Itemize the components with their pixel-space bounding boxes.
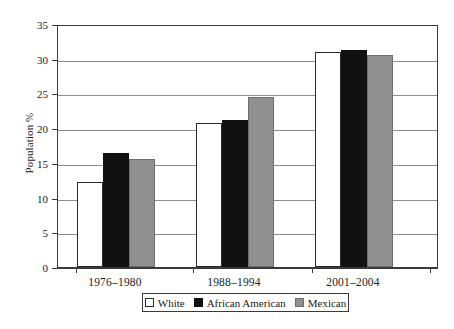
legend-label-african-american: African American xyxy=(207,297,286,309)
x-tick-mark xyxy=(430,268,431,273)
legend-label-white: White xyxy=(158,297,185,309)
bar-african-american-1976–1980 xyxy=(103,153,129,267)
x-tick-mark xyxy=(193,268,194,273)
y-tick-label: 10 xyxy=(24,194,48,205)
y-tick-label: 0 xyxy=(24,263,48,274)
x-tick-mark xyxy=(312,268,313,273)
y-tick-label: 30 xyxy=(24,55,48,66)
gray-swatch-icon xyxy=(295,298,304,307)
bar-mexican-1976–1980 xyxy=(129,159,155,267)
y-tick-label: 15 xyxy=(24,159,48,170)
bar-mexican-1988–1994 xyxy=(248,97,274,267)
y-tick-label: 5 xyxy=(24,228,48,239)
plot-area xyxy=(57,25,438,268)
legend: White African American Mexican xyxy=(142,293,349,312)
bar-mexican-2001–2004 xyxy=(367,55,393,267)
bar-african-american-1988–1994 xyxy=(222,120,248,267)
bar-white-1988–1994 xyxy=(196,123,222,267)
y-tick-label: 25 xyxy=(24,89,48,100)
bar-white-2001–2004 xyxy=(315,52,341,267)
x-tick-label: 2001–2004 xyxy=(293,276,413,288)
white-swatch-icon xyxy=(145,298,154,307)
y-tick-label: 35 xyxy=(24,20,48,31)
x-tick-mark xyxy=(76,268,77,273)
black-swatch-icon xyxy=(194,298,203,307)
x-axis-line xyxy=(57,268,438,269)
x-tick-label: 1976–1980 xyxy=(55,276,175,288)
bar-white-1976–1980 xyxy=(77,182,103,267)
legend-item-african-american[interactable]: African American xyxy=(194,297,286,309)
legend-label-mexican: Mexican xyxy=(308,297,346,309)
x-tick-label: 1988–1994 xyxy=(174,276,294,288)
y-tick-label: 20 xyxy=(24,124,48,135)
bar-chart: Population % 05101520253035 1976–1980198… xyxy=(0,0,454,329)
legend-item-white[interactable]: White xyxy=(145,297,185,309)
legend-item-mexican[interactable]: Mexican xyxy=(295,297,346,309)
bar-african-american-2001–2004 xyxy=(341,50,367,267)
